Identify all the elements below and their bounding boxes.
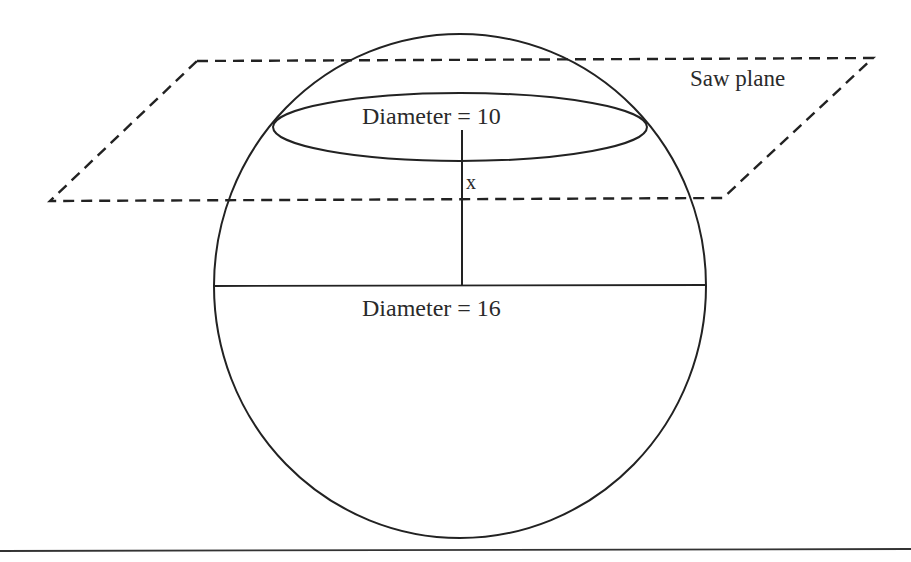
small-diameter-label: Diameter = 10 bbox=[362, 103, 501, 129]
equator-diameter-line bbox=[214, 285, 706, 286]
large-diameter-label: Diameter = 16 bbox=[362, 295, 501, 321]
distance-x-label: x bbox=[466, 171, 476, 193]
baseline bbox=[0, 549, 911, 551]
sphere-saw-plane-diagram: Saw plane Diameter = 10 x Diameter = 16 bbox=[0, 0, 911, 562]
saw-plane-label: Saw plane bbox=[690, 66, 785, 91]
